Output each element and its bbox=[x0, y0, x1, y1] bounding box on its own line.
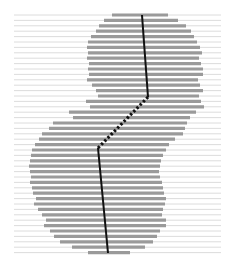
plot-canvas bbox=[0, 0, 231, 266]
caterpillar-plot-figure bbox=[0, 0, 231, 266]
